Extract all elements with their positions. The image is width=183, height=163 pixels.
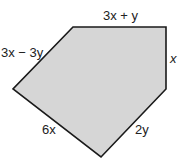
label-bottom-left-side: 6x: [42, 123, 56, 136]
label-right-side: x: [170, 52, 177, 65]
label-bottom-right-side: 2y: [135, 123, 149, 136]
label-top-side: 3x + y: [103, 9, 138, 22]
pentagon-diagram: [0, 0, 183, 163]
label-top-left-side: 3x − 3y: [1, 46, 43, 59]
